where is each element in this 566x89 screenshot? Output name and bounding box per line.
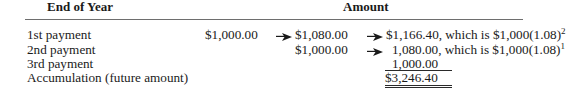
row-label-3rd-payment: 3rd payment [27,57,93,71]
header-rule [25,19,523,20]
row2-exponent: 1 [561,41,566,51]
right-arrow-icon [276,33,292,41]
row1-final-amount: $1,166.40 [386,27,439,42]
total-double-underline-top [385,85,452,86]
row-label-1st-payment: 1st payment [27,28,91,42]
header-amount: Amount [343,0,389,14]
row1-value-year3: $1,166.40, which is $1,000(1.08)2 [386,28,566,42]
row-label-2nd-payment: 2nd payment [27,43,96,57]
row2-value-year3: 1,080.00, which is $1,000(1.08)1 [392,43,565,57]
total-double-underline-bottom [385,87,452,88]
row2-value-year2: $1,000.00 [295,43,348,57]
right-arrow-icon [367,33,383,41]
row1-value-year1: $1,000.00 [205,28,258,42]
row1-note: , which is $1,000(1.08) [439,27,561,42]
row1-exponent: 2 [561,26,566,36]
row-label-accumulation: Accumulation (future amount) [27,71,188,85]
row1-value-year2: $1,080.00 [295,28,348,42]
row2-note: , which is $1,000(1.08) [438,42,560,57]
row3-value-year3: 1,000.00 [392,57,438,71]
right-arrow-icon [367,48,383,56]
header-end-of-year: End of Year [47,0,113,14]
total-future-amount: $3,246.40 [385,71,438,85]
row2-final-amount: 1,080.00 [392,42,438,57]
